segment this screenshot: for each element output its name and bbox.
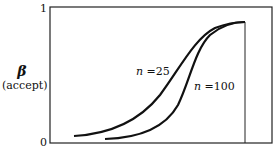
- beta-symbol: β: [2, 63, 42, 79]
- n25-value: =25: [143, 65, 170, 78]
- ytick-0: 0: [40, 137, 47, 148]
- curve-label-n100: n =100: [194, 80, 235, 93]
- ytick-1: 1: [40, 3, 47, 14]
- curve-label-n25: n =25: [136, 65, 170, 78]
- y-axis-label-text: (accept): [2, 79, 42, 92]
- curve-n25: [74, 22, 245, 136]
- n100-value: =100: [201, 80, 235, 93]
- y-axis-label: β (accept): [2, 63, 42, 92]
